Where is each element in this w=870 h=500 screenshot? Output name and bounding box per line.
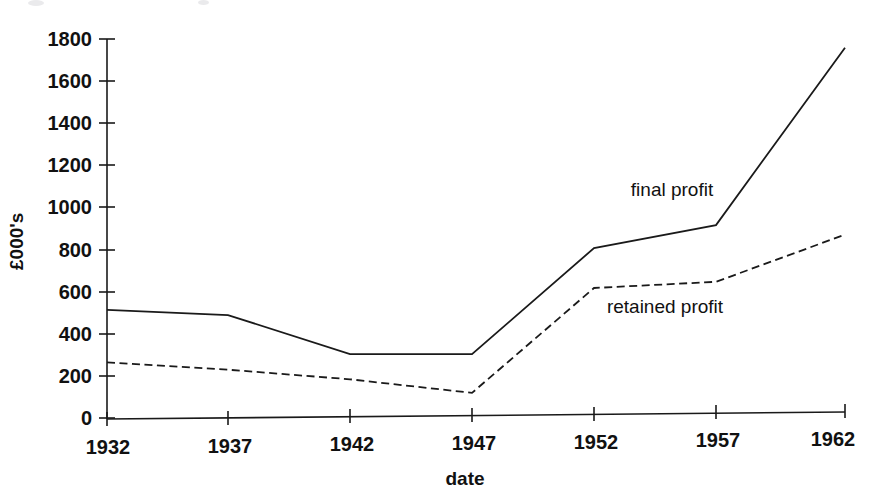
y-tick-label: 1600 (30, 70, 92, 93)
x-axis-line (107, 412, 845, 419)
y-tick-label: 600 (30, 281, 92, 304)
series-label-final-profit: final profit (631, 179, 713, 201)
y-tick-label: 200 (30, 365, 92, 388)
plot-area (0, 0, 870, 500)
y-tick-label: 800 (30, 239, 92, 262)
y-tick-label: 1800 (30, 28, 92, 51)
y-tick-label: 1000 (30, 196, 92, 219)
y-tick-label: 1400 (30, 112, 92, 135)
line-chart: 1800 1600 1400 1200 1000 800 600 400 200… (0, 0, 870, 500)
y-tick-label: 0 (30, 407, 92, 430)
series-label-retained-profit: retained profit (607, 296, 723, 318)
y-tick-label: 400 (30, 323, 92, 346)
y-axis-title: £000's (6, 213, 28, 270)
x-tick-label: 1937 (208, 435, 253, 458)
y-tick-label: 1200 (30, 154, 92, 177)
series-line-final-profit (107, 48, 845, 354)
x-tick-label: 1962 (811, 428, 856, 451)
x-tick-label: 1957 (696, 429, 741, 452)
x-tick-label: 1942 (330, 433, 375, 456)
x-tick-label: 1932 (86, 436, 131, 459)
x-tick-label: 1952 (574, 431, 619, 454)
x-tick-label: 1947 (452, 432, 497, 455)
x-axis-title: date (445, 468, 484, 490)
